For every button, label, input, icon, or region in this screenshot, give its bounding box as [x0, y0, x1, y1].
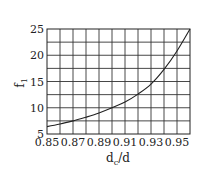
x-tick-label: 0.91: [113, 136, 138, 149]
y-tick-label: 5: [37, 128, 44, 141]
x-axis-label: dc/d: [106, 151, 130, 167]
y-tick-label: 20: [30, 49, 44, 62]
x-tick-labels: 0.850.870.890.910.930.95: [35, 136, 190, 149]
x-tick-label: 0.93: [139, 136, 164, 149]
y-tick-labels: 510152025: [30, 23, 44, 141]
y-tick-label: 10: [30, 102, 44, 115]
grid: [47, 29, 190, 134]
x-tick-label: 0.89: [87, 136, 112, 149]
x-tick-label: 0.95: [165, 136, 190, 149]
y-tick-label: 25: [30, 23, 44, 36]
f1-curve: [47, 29, 190, 127]
y-tick-label: 15: [30, 76, 44, 89]
chart: 0.850.870.890.910.930.95 510152025 f1 dc…: [0, 0, 202, 173]
y-axis-label: f1: [13, 78, 29, 88]
x-tick-label: 0.87: [61, 136, 86, 149]
